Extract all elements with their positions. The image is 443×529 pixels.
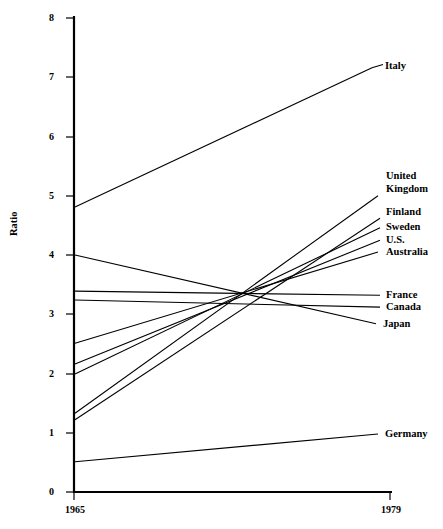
- series-label-us: U.S.: [386, 234, 405, 247]
- series-label-germany: Germany: [385, 428, 428, 441]
- x-tick-label-1965: 1965: [58, 504, 92, 515]
- series-label-france: France: [386, 289, 418, 302]
- series-label-united-kingdom: United Kingdom: [386, 170, 428, 195]
- y-tick-label-3: 3: [32, 308, 54, 319]
- line-chart: Ratio 8 7 6 5 4 3 2 1 0 1965 1979 Italy …: [0, 0, 443, 529]
- series-label-japan: Japan: [383, 318, 410, 331]
- y-tick-label-7: 7: [32, 71, 54, 82]
- x-axis-ticks: [74, 492, 390, 500]
- y-axis-ticks: [66, 18, 74, 492]
- series-line-united-kingdom: [75, 196, 378, 413]
- series-label-finland: Finland: [386, 206, 421, 219]
- series-line-finland: [75, 218, 380, 419]
- series-line-france: [75, 291, 380, 295]
- y-tick-label-4: 4: [32, 249, 54, 260]
- series-label-australia: Australia: [386, 246, 428, 259]
- y-axis-title: Ratio: [8, 212, 19, 237]
- y-tick-label-6: 6: [32, 131, 54, 142]
- series-label-italy: Italy: [385, 60, 406, 73]
- series-label-united-kingdom-line2: Kingdom: [386, 183, 428, 194]
- series-lines: [75, 64, 383, 461]
- y-tick-label-5: 5: [32, 190, 54, 201]
- leader-italy: [372, 64, 383, 67]
- series-label-sweden: Sweden: [386, 221, 420, 234]
- series-label-united-kingdom-line1: United: [386, 170, 416, 181]
- x-tick-label-1979: 1979: [374, 504, 408, 515]
- series-line-italy: [75, 68, 372, 207]
- series-line-japan: [75, 255, 376, 324]
- y-tick-label-2: 2: [32, 368, 54, 379]
- chart-canvas: [0, 0, 443, 529]
- series-line-us: [75, 240, 380, 364]
- series-line-germany: [75, 434, 378, 462]
- y-tick-label-1: 1: [32, 427, 54, 438]
- y-tick-label-8: 8: [32, 12, 54, 23]
- series-label-canada: Canada: [386, 301, 421, 314]
- y-tick-label-0: 0: [32, 486, 54, 497]
